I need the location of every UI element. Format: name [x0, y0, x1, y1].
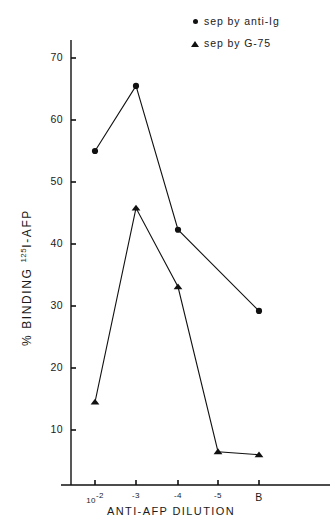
- y-tick-label-10: 10: [35, 423, 63, 435]
- x-tick-label-10-2: 10-2: [75, 491, 115, 505]
- y-tick-label-20: 20: [35, 361, 63, 373]
- y-tick-label-70: 70: [35, 51, 63, 63]
- y-tick-label-30: 30: [35, 299, 63, 311]
- x-tick-label--4: -4: [158, 491, 198, 505]
- data-point-1-3: [214, 448, 223, 454]
- data-point-1-2: [174, 283, 183, 289]
- data-point-1-1: [132, 205, 141, 211]
- plot-area: [0, 0, 336, 531]
- x-tick-label--3: -3: [116, 491, 156, 505]
- data-point-0-0: [92, 148, 98, 154]
- y-tick-label-40: 40: [35, 237, 63, 249]
- x-tick-label--5: -5: [198, 491, 238, 505]
- data-point-0-1: [133, 83, 139, 89]
- data-point-0-2: [175, 227, 181, 233]
- x-tick-label-B: B: [239, 491, 279, 503]
- series-line-1: [95, 208, 259, 455]
- data-point-1-0: [91, 399, 100, 405]
- chart-figure: sep by anti-Ig sep by G-75 % BINDING 125…: [0, 0, 336, 531]
- y-tick-label-50: 50: [35, 175, 63, 187]
- series-line-0: [95, 86, 259, 311]
- y-tick-label-60: 60: [35, 113, 63, 125]
- x-axis-title: ANTI-AFP DILUTION: [71, 505, 271, 517]
- data-point-0-3: [256, 308, 262, 314]
